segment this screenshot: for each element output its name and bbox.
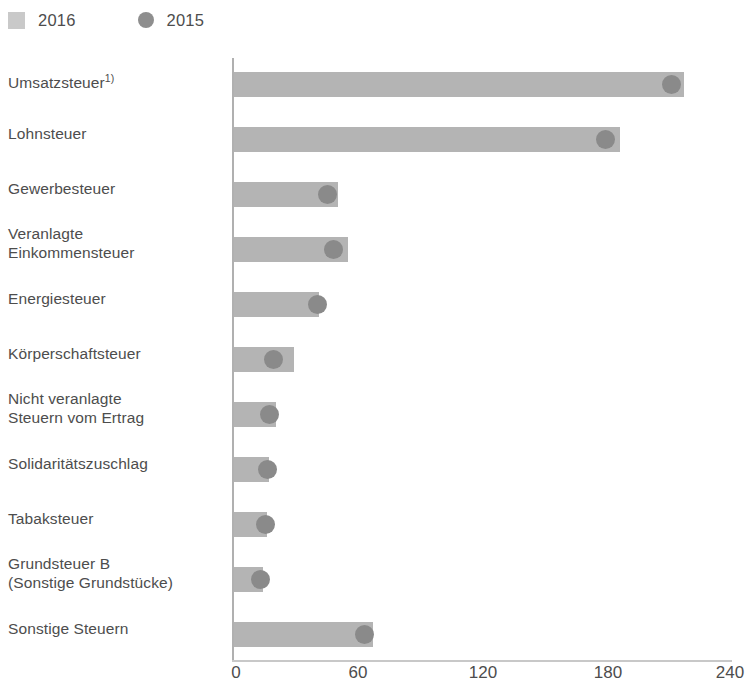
category-label-energiesteuer: Energiesteuer (8, 289, 226, 308)
category-label-lohnsteuer: Lohnsteuer (8, 124, 226, 143)
bar-row (232, 400, 732, 455)
legend-item-2015: 2015 (138, 11, 205, 30)
plot-area (232, 58, 732, 660)
category-label-umsatzsteuer: Umsatzsteuer1) (8, 69, 226, 92)
category-label-koerperschaftsteuer: Körperschaftsteuer (8, 344, 226, 363)
dot-2015 (256, 515, 275, 534)
legend-label-2015: 2015 (167, 11, 205, 30)
bar-row (232, 290, 732, 345)
dot-2015 (251, 570, 270, 589)
bar-row (232, 510, 732, 565)
dot-2015 (596, 130, 615, 149)
legend-item-2016: 2016 (8, 11, 76, 30)
category-label-veranlagte-einkommensteuer: VeranlagteEinkommensteuer (8, 224, 226, 262)
dot-2015 (324, 240, 343, 259)
circle-icon (138, 12, 154, 28)
category-label-line1: Nicht veranlagte (8, 389, 226, 408)
bar-2016 (234, 292, 319, 317)
legend-label-2016: 2016 (38, 11, 76, 30)
category-label-sonstige-steuern: Sonstige Steuern (8, 619, 226, 638)
chart-container: 2016 2015 Umsatzsteuer1) Lohnsteuer Gewe… (0, 0, 752, 692)
category-label-text: Umsatzsteuer (8, 74, 105, 91)
x-tick-label: 0 (231, 663, 240, 683)
category-label-nicht-veranlagte-steuern: Nicht veranlagteSteuern vom Ertrag (8, 389, 226, 427)
x-tick-label: 240 (716, 663, 744, 683)
x-tick-label: 60 (349, 663, 368, 683)
category-label-tabaksteuer: Tabaksteuer (8, 509, 226, 528)
dot-2015 (258, 460, 277, 479)
bar-2016 (234, 72, 684, 97)
chart-legend: 2016 2015 (8, 4, 266, 36)
bar-row (232, 125, 732, 180)
category-label-gewerbesteuer: Gewerbesteuer (8, 179, 226, 198)
bar-row (232, 235, 732, 290)
category-label-line2: (Sonstige Grundstücke) (8, 573, 226, 592)
bar-row (232, 180, 732, 235)
dot-2015 (318, 185, 337, 204)
category-label-line1: Grundsteuer B (8, 554, 226, 573)
dot-2015 (308, 295, 327, 314)
bar-row (232, 455, 732, 510)
category-label-solidaritaetszuschlag: Solidaritätszuschlag (8, 454, 226, 473)
category-label-line2: Steuern vom Ertrag (8, 408, 226, 427)
square-icon (8, 12, 25, 29)
category-label-grundsteuer-b: Grundsteuer B(Sonstige Grundstücke) (8, 554, 226, 592)
bar-row (232, 70, 732, 125)
category-label-line1: Veranlagte (8, 224, 226, 243)
bar-2016 (234, 127, 620, 152)
dot-2015 (264, 350, 283, 369)
bar-2016 (234, 622, 373, 647)
x-tick-label: 120 (469, 663, 497, 683)
x-tick-label: 180 (594, 663, 622, 683)
bar-row (232, 565, 732, 620)
footnote-marker: 1) (105, 72, 115, 84)
bar-row (232, 345, 732, 400)
category-label-line2: Einkommensteuer (8, 243, 226, 262)
dot-2015 (260, 405, 279, 424)
